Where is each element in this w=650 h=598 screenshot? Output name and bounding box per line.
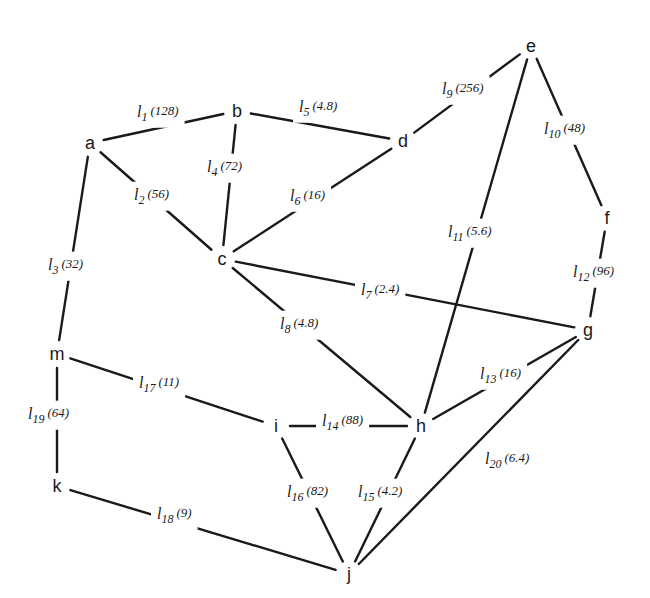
edge-label-l12: l12(96) (567, 259, 620, 288)
edge-index: 17 (143, 381, 156, 395)
edge-label-l1: l1(128) (131, 99, 185, 128)
edge-label-l16: l16(82) (281, 479, 334, 508)
edge-label-l3: l3(32) (42, 252, 89, 281)
edge-weight: (64) (47, 405, 69, 420)
node-e: e (526, 36, 536, 56)
edge-weight: (82) (306, 483, 328, 498)
edge-l20 (359, 340, 578, 564)
node-c: c (218, 249, 227, 269)
edge-index: 19 (32, 412, 44, 426)
weighted-graph-diagram: l1(128)l2(56)l3(32)l4(72)l5(4.8)l6(16)l7… (0, 0, 650, 598)
edge-index: 8 (284, 322, 290, 336)
edge-index: 16 (291, 490, 303, 504)
edge-weight: (2.4) (374, 281, 399, 296)
node-g: g (583, 320, 593, 340)
edge-weight: (72) (220, 158, 242, 173)
node-b: b (232, 101, 242, 121)
edge-weight: (56) (147, 186, 169, 201)
node-m: m (50, 344, 65, 364)
node-k: k (53, 476, 63, 496)
edge-index: 10 (548, 127, 560, 141)
edge-l4 (223, 125, 235, 245)
edge-label-l2: l2(56) (128, 182, 175, 211)
edge-label-l4: l4(72) (201, 154, 248, 183)
edge-index: 13 (484, 372, 496, 386)
edge-label-l5: l5(4.8) (293, 94, 343, 123)
edge-index: 15 (362, 490, 374, 504)
edge-index: 18 (161, 512, 173, 526)
edge-label-l19: l19(64) (22, 401, 75, 430)
edge-weight: (4.8) (293, 315, 318, 330)
edge-index: 2 (138, 193, 144, 207)
edge-label-l8: l8(4.8) (274, 311, 324, 340)
node-a: a (85, 133, 96, 153)
edge-label-l18: l18(9) (151, 501, 198, 530)
edge-index: 6 (294, 194, 300, 208)
node-j: j (346, 564, 351, 584)
edge-label-l11: l11(5.6) (442, 219, 497, 248)
edge-index: 9 (446, 87, 452, 101)
edge-weight: (11) (158, 374, 179, 389)
edge-label-l13: l13(16) (474, 361, 527, 390)
edge-label-l10: l10(48) (538, 116, 591, 145)
edge-index: 4 (211, 165, 217, 179)
edge-weight: (256) (455, 80, 483, 95)
edge-weight: (4.2) (377, 483, 402, 498)
edge-weight: (4.8) (312, 98, 337, 113)
edge-weight: (16) (499, 365, 521, 380)
node-f: f (604, 208, 610, 228)
node-i: i (274, 416, 278, 436)
edge-index: 5 (303, 105, 309, 119)
edge-index: 3 (51, 263, 58, 277)
graph-edge-labels: l1(128)l2(56)l3(32)l4(72)l5(4.8)l6(16)l7… (22, 76, 620, 530)
edge-weight: (16) (303, 187, 325, 202)
edge-label-l9: l9(256) (436, 76, 490, 105)
edge-l3 (59, 157, 88, 340)
edge-weight: (6.4) (504, 450, 529, 465)
edge-weight: (9) (176, 505, 191, 520)
edge-weight: (32) (61, 256, 83, 271)
edge-weight: (48) (563, 120, 585, 135)
edge-weight: (5.6) (467, 223, 492, 238)
edge-label-l17: l17(11) (133, 370, 185, 399)
edge-index: 7 (365, 288, 372, 302)
edge-weight: (96) (592, 263, 614, 278)
edge-index: 11 (452, 230, 463, 244)
edge-index: 1 (141, 110, 147, 124)
edge-weight: (88) (341, 412, 363, 427)
edge-weight: (128) (150, 103, 178, 118)
edge-label-l14: l14(88) (316, 408, 369, 437)
node-h: h (416, 416, 426, 436)
edge-label-l6: l6(16) (284, 183, 331, 212)
edge-index: 12 (577, 270, 589, 284)
edge-label-l15: l15(4.2) (352, 479, 408, 508)
node-d: d (398, 131, 408, 151)
edge-label-l7: l7(2.4) (355, 277, 405, 306)
edge-index: 20 (489, 457, 501, 471)
edge-label-l20: l20(6.4) (479, 446, 535, 475)
edge-index: 14 (326, 419, 338, 433)
